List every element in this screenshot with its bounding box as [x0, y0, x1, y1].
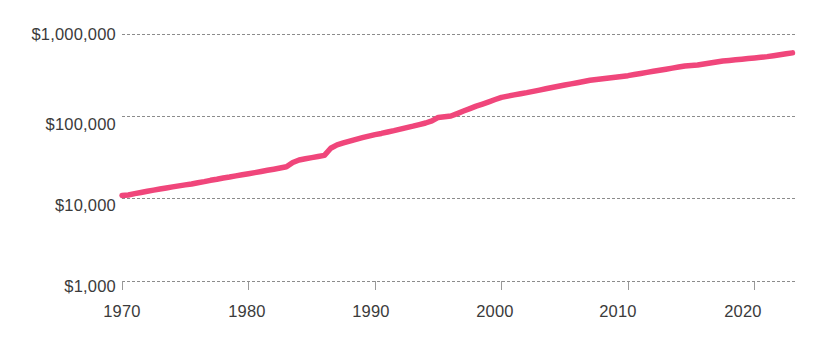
x-axis-ticks	[122, 281, 755, 290]
gridlines	[122, 34, 795, 281]
data-series-line	[122, 53, 792, 196]
line-chart: $1,000,000 $100,000 $10,000 $1,000 1970 …	[0, 0, 826, 359]
axis-lines	[122, 281, 795, 290]
chart-canvas	[0, 0, 826, 359]
series-line-value	[122, 53, 792, 196]
